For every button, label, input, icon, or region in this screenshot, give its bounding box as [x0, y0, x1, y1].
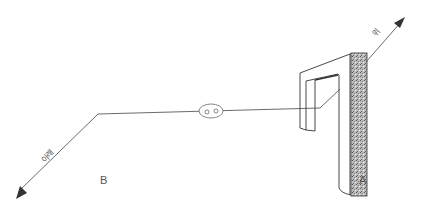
point-a-label: A	[359, 174, 366, 186]
connector-ellipse	[199, 104, 223, 118]
up-arrow-icon	[366, 17, 405, 62]
wire	[20, 89, 340, 190]
point-b-label: B	[100, 174, 107, 186]
frame-structure	[300, 54, 351, 195]
down-arrow-icon	[16, 186, 27, 199]
